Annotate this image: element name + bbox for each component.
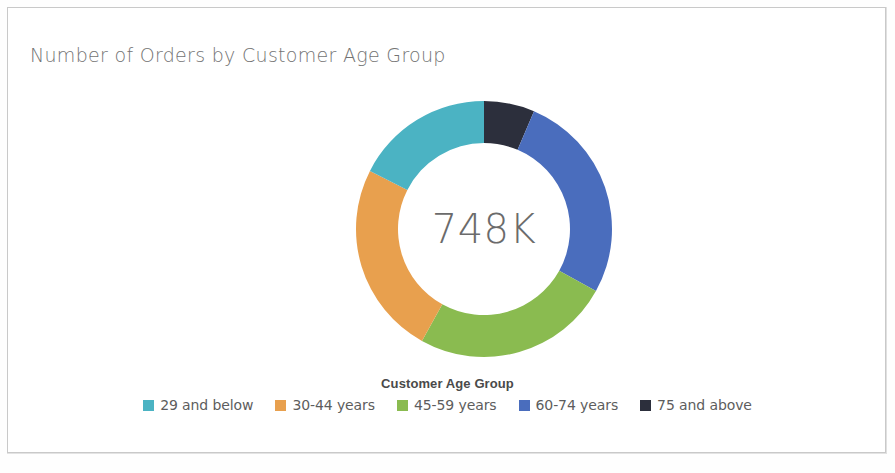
legend-swatch-icon <box>143 400 154 411</box>
legend-item-label: 75 and above <box>657 397 752 413</box>
legend-swatch-icon <box>397 400 408 411</box>
chart-legend: Customer Age Group 29 and below30-44 yea… <box>0 376 895 413</box>
legend-swatch-icon <box>519 400 530 411</box>
tile-bottom-edge <box>7 453 886 454</box>
legend-item[interactable]: 30-44 years <box>275 397 375 413</box>
chart-title: Number of Orders by Customer Age Group <box>30 44 446 66</box>
legend-item-label: 30-44 years <box>292 397 375 413</box>
legend-item[interactable]: 29 and below <box>143 397 253 413</box>
legend-item-label: 60-74 years <box>536 397 619 413</box>
legend-item-list: 29 and below30-44 years45-59 years60-74 … <box>0 397 895 413</box>
legend-swatch-icon <box>275 400 286 411</box>
legend-item-label: 45-59 years <box>414 397 497 413</box>
legend-item[interactable]: 45-59 years <box>397 397 497 413</box>
legend-swatch-icon <box>640 400 651 411</box>
legend-title: Customer Age Group <box>0 376 895 391</box>
screenshot-root: Number of Orders by Customer Age Group 7… <box>0 0 895 473</box>
legend-item-label: 29 and below <box>160 397 253 413</box>
legend-item[interactable]: 60-74 years <box>519 397 619 413</box>
legend-item[interactable]: 75 and above <box>640 397 752 413</box>
